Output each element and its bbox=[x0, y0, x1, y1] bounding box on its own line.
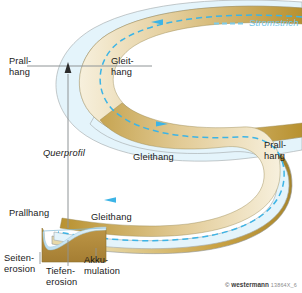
label-cs-gleithang: Gleithang bbox=[91, 212, 132, 223]
copyright-symbol: © bbox=[225, 282, 229, 288]
copyright-credit: © westermann 13864X_6 bbox=[225, 281, 297, 288]
diagram-canvas: Prall-hang Gleit-hang Querprofil Gleitha… bbox=[0, 0, 302, 293]
label-gleithang-top: Gleit-hang bbox=[111, 56, 134, 77]
label-querprofil: Querprofil bbox=[43, 148, 85, 159]
label-cs-akkumulation: Akku-mulation bbox=[84, 255, 120, 276]
label-cs-seitenerosion: Seiten-erosion bbox=[4, 253, 35, 274]
legend-label-stromstrich: Stromstrich bbox=[249, 18, 299, 29]
publisher-name: westermann bbox=[231, 281, 269, 288]
label-cs-prallhang: Prallhang bbox=[9, 208, 49, 219]
label-cs-tiefenerosion: Tiefen-erosion bbox=[46, 266, 77, 287]
figure-code: 13864X_6 bbox=[271, 282, 297, 288]
label-prallhang-top: Prall-hang bbox=[9, 56, 31, 77]
label-prallhang-right: Prall-hang bbox=[264, 140, 286, 161]
meander-diagram-svg bbox=[0, 0, 302, 293]
flow-arrow-bottom bbox=[104, 197, 116, 202]
label-gleithang-middle: Gleithang bbox=[133, 152, 174, 163]
